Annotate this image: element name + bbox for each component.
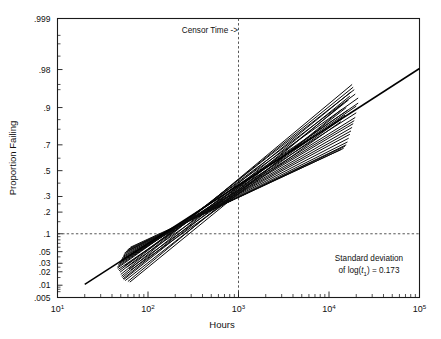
lognormal-probability-plot-figure: .999.98.9.7.5.3.2.1.05.03.02.01.005 1011… (0, 0, 441, 339)
x-tick-base: 10 (322, 304, 332, 314)
y-axis-tick-label: .98 (39, 65, 51, 75)
true-distribution-line (85, 68, 420, 284)
y-axis-tick-label: .999 (34, 14, 51, 24)
sd-note-line-1: Standard deviation (335, 254, 404, 263)
x-axis-tick-label: 104 (322, 302, 336, 314)
y-axis-tick-label: .1 (43, 229, 50, 239)
y-axis-tick-label: .5 (43, 166, 50, 176)
x-tick-base: 10 (413, 304, 423, 314)
y-axis-tick-label: .2 (43, 207, 50, 217)
censor-time-annotation: Censor Time -> (182, 26, 238, 35)
y-axis-tick-label: .3 (43, 191, 50, 201)
x-axis-tick-label: 101 (51, 302, 65, 314)
y-axis-tick-label: .01 (39, 280, 51, 290)
x-tick-base: 10 (232, 304, 242, 314)
sd-note-line-2: of log(t1) = 0.173 (339, 266, 400, 277)
y-axis-tick-label: .02 (39, 267, 51, 277)
ml-fit-line-group (117, 84, 358, 282)
ml-fit-line (128, 103, 344, 281)
x-tick-base: 10 (51, 304, 61, 314)
plot-canvas: .999.98.9.7.5.3.2.1.05.03.02.01.005 1011… (0, 0, 441, 339)
x-axis-tick-label: 103 (232, 302, 246, 314)
y-axis-tick-label: .05 (39, 247, 51, 257)
x-tick-exponent: 5 (423, 302, 427, 309)
sd-note-suffix: ) = 0.173 (367, 266, 400, 275)
ml-fit-line (122, 84, 353, 276)
x-tick-exponent: 4 (332, 302, 336, 309)
ml-fit-line (125, 110, 348, 266)
ml-fit-line (130, 150, 340, 248)
x-axis-title: Hours (209, 319, 235, 330)
y-axis-tick-label: .005 (34, 293, 51, 303)
x-tick-base: 10 (141, 304, 151, 314)
x-axis-tick-labels: 101102103104105 (51, 302, 427, 314)
x-axis-tick-label: 102 (141, 302, 155, 314)
true-distribution-line-group (85, 68, 420, 284)
ml-fit-line (131, 122, 341, 270)
ml-fit-line (129, 119, 342, 269)
sd-note-prefix: of log( (339, 266, 362, 275)
y-axis-tick-labels: .999.98.9.7.5.3.2.1.05.03.02.01.005 (34, 14, 51, 303)
y-axis-tick-label: .9 (43, 103, 50, 113)
y-axis-tick-label: .7 (43, 140, 50, 150)
x-tick-exponent: 3 (242, 302, 246, 309)
x-tick-exponent: 2 (151, 302, 155, 309)
x-tick-exponent: 1 (61, 302, 65, 309)
y-axis-title: Proportion Failing (7, 121, 18, 195)
x-axis-tick-label: 105 (413, 302, 427, 314)
